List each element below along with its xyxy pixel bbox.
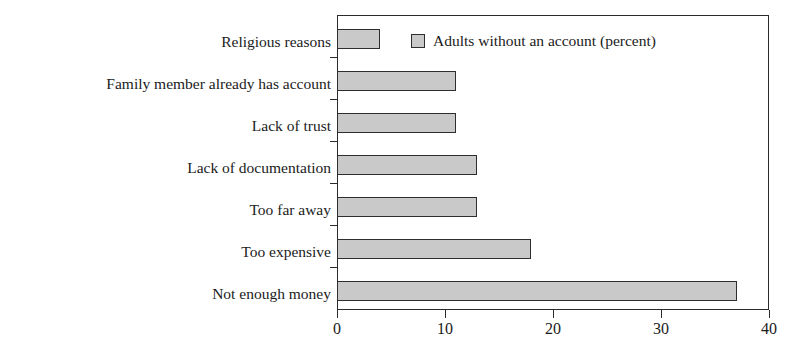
x-axis-label-30: 30 xyxy=(641,320,681,338)
category-label-lack-of-trust: Lack of trust xyxy=(0,117,331,135)
category-label-not-enough-money: Not enough money xyxy=(0,285,331,303)
bar-too-expensive xyxy=(337,239,531,259)
x-axis-label-10: 10 xyxy=(425,320,465,338)
x-axis-tick xyxy=(553,310,554,318)
x-axis-label-0: 0 xyxy=(317,320,357,338)
x-axis-label-20: 20 xyxy=(533,320,573,338)
y-axis-tick xyxy=(330,183,337,184)
bar-not-enough-money xyxy=(337,281,737,301)
category-label-too-far-away: Too far away xyxy=(0,201,331,219)
x-axis-tick xyxy=(661,310,662,318)
y-axis-tick xyxy=(330,99,337,100)
category-label-religious-reasons: Religious reasons xyxy=(0,33,331,51)
x-axis-tick xyxy=(337,310,338,318)
y-axis-tick xyxy=(330,141,337,142)
bar-religious-reasons xyxy=(337,29,380,49)
category-label-family-member-has-account: Family member already has account xyxy=(0,75,331,93)
y-axis-tick xyxy=(330,57,337,58)
category-label-too-expensive: Too expensive xyxy=(0,243,331,261)
legend-label: Adults without an account (percent) xyxy=(433,32,656,50)
bar-chart: Religious reasons Family member already … xyxy=(0,0,800,356)
bar-lack-of-documentation xyxy=(337,155,477,175)
y-axis-tick xyxy=(330,225,337,226)
x-axis-label-40: 40 xyxy=(749,320,789,338)
bar-lack-of-trust xyxy=(337,113,456,133)
y-axis-tick xyxy=(330,267,337,268)
category-label-lack-of-documentation: Lack of documentation xyxy=(0,159,331,177)
x-axis-tick xyxy=(769,310,770,318)
bar-family-member-has-account xyxy=(337,71,456,91)
legend: Adults without an account (percent) xyxy=(411,32,656,50)
bar-too-far-away xyxy=(337,197,477,217)
x-axis-tick xyxy=(445,310,446,318)
legend-swatch-icon xyxy=(411,34,425,48)
